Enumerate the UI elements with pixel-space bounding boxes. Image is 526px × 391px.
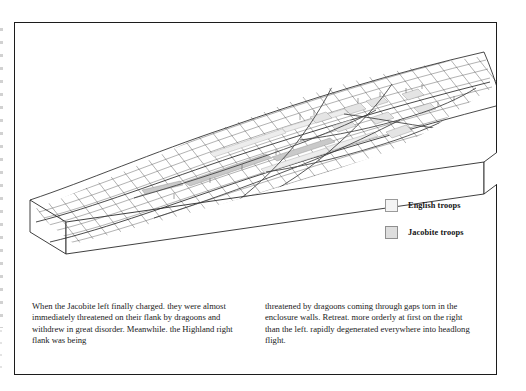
caption-text-left: When the Jacobite left finally charged. … — [32, 301, 241, 346]
scan-edge-artifact — [0, 28, 3, 328]
caption-column-left: When the Jacobite left finally charged. … — [32, 301, 241, 346]
scanned-page: English troops Jacobite troops When the … — [0, 0, 526, 391]
legend-swatch-english-troops — [385, 199, 398, 212]
figure-caption: When the Jacobite left finally charged. … — [32, 301, 472, 346]
legend: English troops Jacobite troops — [385, 195, 515, 249]
caption-text-right: threatened by dragoons coming through ga… — [265, 301, 472, 346]
caption-column-right: threatened by dragoons coming through ga… — [265, 301, 472, 346]
legend-item-english-troops: English troops — [385, 195, 515, 215]
legend-swatch-jacobite-troops — [385, 226, 398, 239]
legend-label-english-troops: English troops — [408, 201, 461, 210]
legend-label-jacobite-troops: Jacobite troops — [408, 228, 464, 237]
legend-item-jacobite-troops: Jacobite troops — [385, 222, 515, 242]
scan-edge-artifact-lower — [0, 330, 2, 370]
english-formation-bars — [210, 109, 378, 173]
